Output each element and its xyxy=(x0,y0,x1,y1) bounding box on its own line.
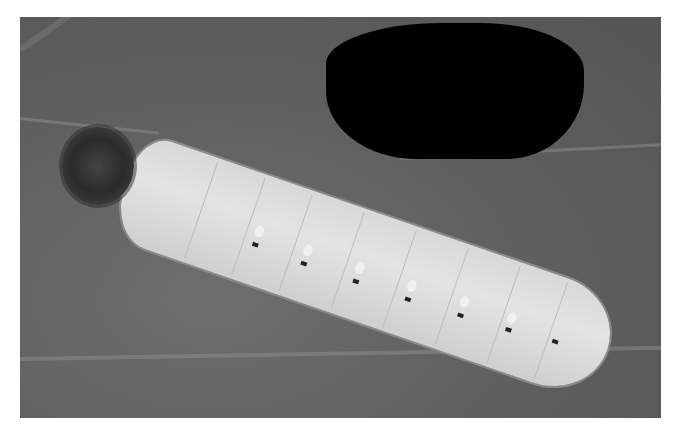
leaf-vein xyxy=(20,17,87,52)
photo xyxy=(20,17,661,418)
black-blob xyxy=(326,23,584,159)
caterpillar-body xyxy=(107,132,625,402)
caterpillar-head xyxy=(62,127,134,205)
